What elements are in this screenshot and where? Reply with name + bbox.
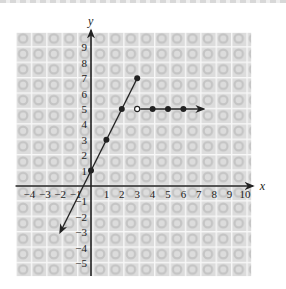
y-tick-label: 8 — [82, 57, 88, 69]
x-tick-label: 7 — [196, 188, 202, 200]
y-tick-label: −5 — [75, 257, 87, 269]
y-tick-label: 9 — [82, 41, 88, 53]
x-tick-label: 4 — [150, 188, 156, 200]
grid-background — [16, 33, 251, 276]
grid-area — [16, 33, 251, 276]
x-axis-label: x — [259, 179, 266, 193]
y-tick-label: −2 — [75, 211, 87, 223]
x-tick-label: 10 — [240, 188, 252, 200]
open-point — [135, 106, 140, 111]
x-tick-label: 2 — [119, 188, 125, 200]
x-tick-label: 8 — [211, 188, 217, 200]
y-tick-label: 4 — [82, 118, 88, 130]
y-tick-label: −4 — [75, 242, 87, 254]
x-tick-label: −4 — [24, 188, 36, 200]
x-tick-label: 5 — [165, 188, 171, 200]
y-tick-label: 2 — [82, 149, 88, 161]
closed-point — [103, 137, 109, 143]
y-tick-label: 6 — [82, 88, 88, 100]
closed-point — [165, 106, 171, 112]
y-tick-label: 5 — [82, 103, 88, 115]
x-tick-label: 3 — [134, 188, 140, 200]
coordinate-plane: xy −4−3−2−112345678910987654321−1−2−3−4−… — [0, 0, 286, 289]
x-tick-label: 6 — [181, 188, 187, 200]
closed-point — [88, 168, 94, 174]
y-tick-label: 3 — [82, 134, 88, 146]
y-axis-label: y — [87, 14, 94, 28]
y-tick-label: −3 — [75, 226, 87, 238]
closed-point — [119, 106, 125, 112]
y-tick-label: 1 — [82, 165, 88, 177]
x-tick-label: 1 — [104, 188, 110, 200]
x-tick-label: −3 — [39, 188, 51, 200]
y-tick-label: 7 — [82, 72, 88, 84]
x-tick-label: −2 — [54, 188, 66, 200]
closed-point — [134, 75, 140, 81]
closed-point — [180, 106, 186, 112]
closed-point — [150, 106, 156, 112]
x-tick-label: 9 — [227, 188, 233, 200]
